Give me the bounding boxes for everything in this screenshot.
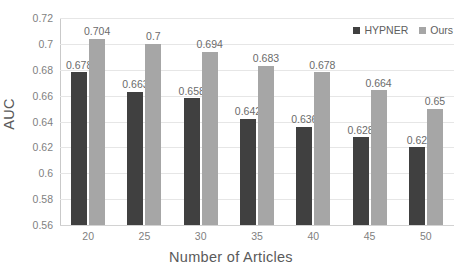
bar-hypner-20[interactable] [71, 72, 87, 225]
bar-hypner-40[interactable] [296, 127, 312, 225]
y-axis-tick-label: 0.56 [8, 219, 53, 231]
bar-group: 0.6360.678 [296, 18, 330, 225]
legend-label: Ours [430, 24, 453, 36]
legend-swatch-icon [353, 27, 360, 34]
bar-ours-45[interactable] [371, 90, 387, 225]
bar-ours-20[interactable] [89, 39, 105, 225]
x-axis-tick-label: 20 [58, 230, 118, 242]
bar-ours-30[interactable] [202, 52, 218, 225]
bar-group: 0.6580.694 [184, 18, 218, 225]
bar-ours-50[interactable] [427, 109, 443, 225]
y-axis-tick-label: 0.6 [8, 167, 53, 179]
legend-entry-ours[interactable]: Ours [419, 24, 453, 36]
bar-group: 0.6780.704 [71, 18, 105, 225]
data-label: 0.683 [245, 53, 287, 64]
data-label: 0.678 [301, 60, 343, 71]
y-axis-tick-label: 0.72 [8, 12, 53, 24]
bar-group: 0.6420.683 [240, 18, 274, 225]
gridline [60, 225, 454, 226]
y-axis-title: AUC [1, 84, 17, 144]
bar-ours-35[interactable] [258, 66, 274, 225]
x-axis-title: Number of Articles [0, 249, 462, 265]
legend-swatch-icon [419, 27, 426, 34]
bar-group: 0.6630.7 [127, 18, 161, 225]
legend-entry-hypner[interactable]: HYPNER [353, 24, 408, 36]
bar-ours-25[interactable] [145, 44, 161, 225]
x-axis-tick-label: 40 [283, 230, 343, 242]
x-axis-tick-label: 30 [171, 230, 231, 242]
legend-label: HYPNER [364, 24, 408, 36]
bar-chart: AUC 0.560.580.60.620.640.660.680.70.72 0… [0, 0, 462, 278]
data-label: 0.694 [189, 39, 231, 50]
data-label: 0.65 [414, 96, 456, 107]
x-axis-tick-label: 45 [340, 230, 400, 242]
bar-hypner-35[interactable] [240, 119, 256, 225]
bar-hypner-45[interactable] [353, 137, 369, 225]
plot-area: 0.6780.7040.6630.70.6580.6940.6420.6830.… [60, 18, 454, 225]
bar-group: 0.620.65 [409, 18, 443, 225]
data-label: 0.7 [132, 31, 174, 42]
y-axis-tick-label: 0.58 [8, 193, 53, 205]
bar-ours-40[interactable] [314, 72, 330, 225]
y-axis-tick-label: 0.68 [8, 64, 53, 76]
data-label: 0.704 [76, 26, 118, 37]
bar-group: 0.6280.664 [353, 18, 387, 225]
x-axis-tick-label: 35 [227, 230, 287, 242]
data-label: 0.664 [358, 78, 400, 89]
chart-legend: HYPNEROurs [353, 24, 453, 36]
y-axis-tick-label: 0.7 [8, 38, 53, 50]
bar-hypner-30[interactable] [184, 98, 200, 225]
x-axis-tick-label: 25 [114, 230, 174, 242]
bar-hypner-25[interactable] [127, 92, 143, 225]
x-axis-tick-label: 50 [396, 230, 456, 242]
bar-hypner-50[interactable] [409, 147, 425, 225]
